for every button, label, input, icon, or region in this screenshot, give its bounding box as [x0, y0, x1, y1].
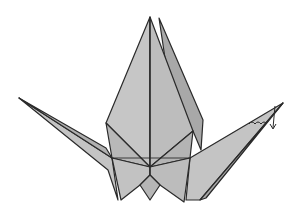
left-wing-inner — [19, 98, 112, 158]
origami-diagram — [0, 0, 299, 215]
crane-illustration — [0, 0, 299, 215]
